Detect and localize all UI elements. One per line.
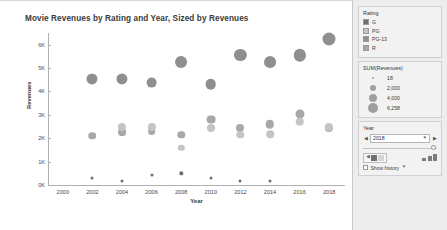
rating-legend-label: PG (372, 28, 380, 34)
x-axis-tick: 2004 (116, 189, 128, 195)
data-point[interactable] (116, 73, 127, 84)
color-swatch (363, 36, 369, 42)
x-axis-tick: 2018 (323, 189, 335, 195)
chevron-down-icon[interactable]: ▼ (402, 165, 406, 170)
year-filter-title: Year (363, 125, 437, 131)
size-marker-slot (363, 94, 383, 102)
x-axis-tick: 2012 (234, 189, 246, 195)
size-legend-label: 18 (387, 75, 393, 81)
data-point[interactable] (269, 180, 272, 183)
data-point[interactable] (87, 73, 98, 84)
playback-button-group[interactable]: ◀ (363, 153, 387, 163)
size-marker (369, 94, 377, 102)
size-legend-label: 6,258 (387, 105, 400, 111)
data-point[interactable] (323, 32, 336, 45)
playback-controls: ◀ (363, 153, 437, 163)
size-marker (370, 85, 376, 91)
legend-panel: Rating GPGPG-13R SUM(Revenues) 182,0004,… (352, 0, 447, 230)
chart-title: Movie Revenues by Rating and Year, Sized… (25, 14, 248, 23)
size-legend-item-1: 2,000 (363, 83, 437, 92)
show-history-label: Show history (371, 165, 400, 171)
data-point[interactable] (146, 77, 157, 88)
y-axis-title: Revenues (26, 82, 32, 109)
data-point[interactable] (207, 124, 215, 132)
year-value-box[interactable]: 2018 ▼ (370, 134, 430, 143)
size-legend-card: SUM(Revenues) 182,0004,0006,258 (358, 61, 442, 119)
size-marker (372, 77, 374, 79)
data-point[interactable] (150, 174, 153, 177)
data-point[interactable] (91, 177, 94, 180)
x-axis-tick: 2006 (145, 189, 157, 195)
y-axis-tick: 6K (38, 42, 48, 48)
x-axis-tick: 2002 (86, 189, 98, 195)
chevron-left-icon[interactable]: ◀ (363, 136, 368, 141)
size-legend-item-2: 4,000 (363, 93, 437, 102)
x-axis-tick: 2000 (57, 189, 69, 195)
data-point[interactable] (178, 131, 185, 138)
y-axis-tick: 4K (38, 88, 48, 94)
size-marker-slot (363, 103, 383, 113)
rating-legend-item-r[interactable]: R (363, 44, 437, 51)
data-point[interactable] (175, 56, 187, 68)
data-point[interactable] (295, 118, 304, 127)
size-legend-label: 2,000 (387, 85, 400, 91)
size-marker-slot (363, 77, 383, 79)
data-point[interactable] (264, 56, 276, 68)
rating-legend-item-g[interactable]: G (363, 19, 437, 26)
rating-legend-item-pg[interactable]: PG (363, 27, 437, 34)
chevron-down-icon[interactable]: ▼ (423, 136, 427, 141)
data-point[interactable] (121, 179, 124, 182)
rating-legend-label: R (372, 45, 376, 51)
year-slider-knob[interactable] (431, 145, 436, 150)
year-slider[interactable] (363, 145, 437, 152)
y-axis-tick: 1K (38, 159, 48, 165)
play-icon[interactable] (371, 155, 377, 161)
data-point[interactable] (266, 130, 274, 138)
data-point[interactable] (237, 131, 244, 138)
chart-worksheet: Movie Revenues by Rating and Year, Sized… (0, 0, 352, 230)
plot-area: 0K1K2K3K4K5K6K20002002200420062008201020… (48, 33, 344, 185)
data-point[interactable] (206, 115, 215, 124)
chevron-right-icon[interactable]: ▶ (432, 136, 437, 141)
data-point[interactable] (234, 49, 246, 61)
size-legend-label: 4,000 (387, 95, 400, 101)
x-axis-tick: 2008 (175, 189, 187, 195)
data-point[interactable] (239, 179, 242, 182)
y-axis-tick: 2K (38, 135, 48, 141)
step-back-icon[interactable]: ◀ (366, 155, 370, 160)
data-point[interactable] (206, 79, 217, 90)
size-legend-items: 182,0004,0006,258 (363, 73, 437, 112)
x-axis-tick: 2010 (205, 189, 217, 195)
step-forward-icon[interactable] (378, 155, 384, 161)
data-point[interactable] (266, 120, 274, 128)
rating-legend-items: GPGPG-13R (363, 19, 437, 52)
size-marker (368, 103, 378, 113)
year-spinner[interactable]: ◀ 2018 ▼ ▶ (363, 134, 437, 143)
dashboard-root: Movie Revenues by Rating and Year, Sized… (0, 0, 447, 230)
rating-legend-label: G (372, 19, 376, 25)
data-point[interactable] (293, 49, 305, 61)
data-point[interactable] (180, 172, 183, 175)
data-point[interactable] (89, 132, 97, 140)
color-swatch (363, 19, 369, 25)
color-swatch (363, 28, 369, 34)
x-axis-tick: 2014 (264, 189, 276, 195)
rating-legend-title: Rating (363, 10, 437, 16)
size-legend-item-3: 6,258 (363, 103, 437, 112)
size-legend-title: SUM(Revenues) (363, 65, 437, 71)
rating-legend-item-pg-13[interactable]: PG-13 (363, 36, 437, 43)
data-point[interactable] (178, 144, 184, 150)
show-history-row[interactable]: Show history ▼ (363, 165, 437, 171)
speed-icon[interactable] (422, 154, 437, 161)
color-swatch (363, 45, 369, 51)
year-filter-card: Year ◀ 2018 ▼ ▶ ◀ (358, 121, 442, 176)
data-point[interactable] (209, 176, 212, 179)
show-history-checkbox[interactable] (363, 165, 368, 170)
y-axis-tick: 0K (38, 182, 48, 188)
size-legend-item-0: 18 (363, 73, 437, 82)
x-axis-tick: 2016 (293, 189, 305, 195)
rating-legend-card: Rating GPGPG-13R (358, 6, 442, 58)
y-axis-tick: 3K (38, 112, 48, 118)
rating-legend-label: PG-13 (372, 36, 387, 42)
year-value: 2018 (373, 135, 385, 141)
